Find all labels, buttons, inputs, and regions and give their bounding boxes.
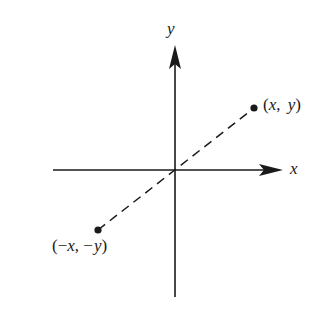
coordinate-diagram — [0, 0, 327, 320]
label-comma: , — [276, 95, 285, 114]
label-paren-open-neg: (− — [52, 236, 67, 255]
y-axis-label: y — [167, 20, 175, 37]
point-x-y — [250, 104, 257, 111]
point-label-x-y: (x, y) — [263, 96, 301, 113]
label-paren-close: ) — [295, 95, 301, 114]
point-label-neg-x-neg-y: (−x, −y) — [52, 237, 107, 254]
label-comma-neg: , − — [75, 236, 93, 255]
label-var-x: x — [67, 236, 75, 255]
x-axis-label: x — [290, 160, 298, 177]
label-paren-close: ) — [101, 236, 107, 255]
dashed-connector — [98, 108, 254, 230]
point-neg-x-neg-y — [94, 226, 101, 233]
